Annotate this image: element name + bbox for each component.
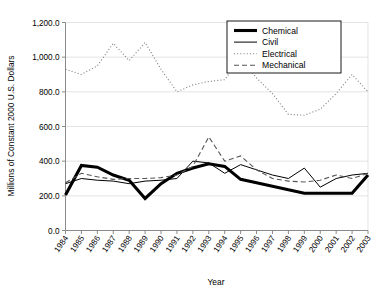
x-tick-label: 1990	[148, 234, 166, 254]
y-tick-label: 600.0	[39, 123, 60, 132]
x-tick-label: 2002	[339, 234, 357, 254]
x-axis-title: Year	[208, 277, 225, 287]
y-tick-label: 1,200.0	[32, 19, 60, 28]
x-tick-label: 1995	[228, 234, 246, 254]
x-tick-label: 1993	[196, 234, 214, 254]
series-line-mechanical	[66, 137, 369, 183]
y-axis-ticks: 0.0200.0400.0600.0800.01,000.01,200.0	[32, 19, 65, 236]
x-tick-label: 1984	[53, 234, 71, 254]
x-tick-label: 1989	[132, 234, 150, 254]
x-tick-label: 1997	[259, 234, 277, 254]
line-chart: 0.0200.0400.0600.0800.01,000.01,200.0 19…	[0, 0, 390, 291]
x-tick-label: 1992	[180, 234, 198, 254]
y-axis-title: Millions of Constant 2000 U.S. Dollars	[6, 55, 16, 196]
chart-canvas: 0.0200.0400.0600.0800.01,000.01,200.0 19…	[0, 0, 390, 291]
y-tick-label: 1,000.0	[32, 53, 60, 62]
x-tick-label: 1998	[275, 234, 293, 254]
x-tick-label: 2000	[307, 234, 325, 254]
x-tick-label: 2001	[323, 234, 341, 254]
y-tick-label: 800.0	[39, 88, 60, 97]
y-tick-label: 0.0	[48, 227, 60, 236]
x-tick-label: 1987	[100, 234, 118, 254]
y-tick-label: 400.0	[39, 157, 60, 166]
x-tick-label: 1999	[291, 234, 309, 254]
x-tick-label: 1994	[212, 234, 230, 254]
x-tick-label: 2003	[355, 234, 373, 254]
x-axis-ticks: 1984198519861987198819891990199119921993…	[53, 231, 374, 255]
x-tick-label: 1996	[244, 234, 262, 254]
x-tick-label: 1988	[116, 234, 134, 254]
legend-label-electrical: Electrical	[262, 49, 297, 59]
x-tick-label: 1986	[84, 234, 102, 254]
legend-label-chemical: Chemical	[262, 26, 298, 36]
x-tick-label: 1991	[164, 234, 182, 254]
legend-label-civil: Civil	[262, 37, 278, 47]
x-tick-label: 1985	[68, 234, 86, 254]
legend: ChemicalCivilElectricalMechanical	[227, 21, 341, 73]
legend-label-mechanical: Mechanical	[262, 60, 306, 70]
y-tick-label: 200.0	[39, 192, 60, 201]
